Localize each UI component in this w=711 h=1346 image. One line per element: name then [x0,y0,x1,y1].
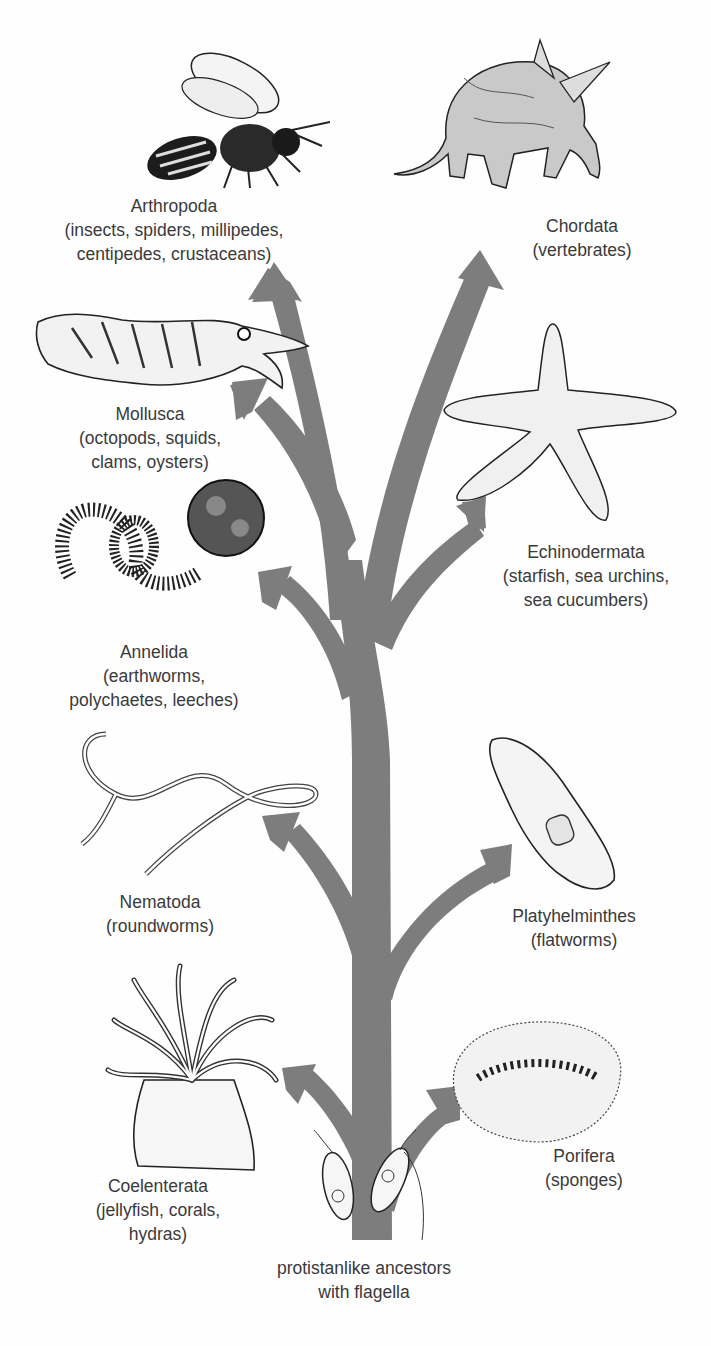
root-label-line2: with flagella [277,1280,451,1304]
label-nematoda: Nematoda (roundworms) [106,890,214,938]
phylum-examples: (roundworms) [106,914,214,938]
phylum-examples: (earthworms, [69,664,238,688]
flagellate-protists-illustration [312,1130,432,1240]
phylum-examples: (sponges) [545,1168,623,1192]
phylum-name: Nematoda [106,890,214,914]
phylogeny-diagram: Arthropoda (insects, spiders, millipedes… [0,0,711,1346]
phylum-examples: clams, oysters) [79,450,221,474]
phylum-name: Porifera [545,1144,623,1168]
sponge-illustration [448,1018,628,1146]
phylum-examples: (insects, spiders, millipedes, [65,218,284,242]
branch-platyhelminthes [372,862,498,1000]
label-platyhelminthes: Platyhelminthes (flatworms) [512,904,636,952]
bee-illustration [140,38,330,190]
label-root-ancestors: protistanlike ancestors with flagella [277,1256,451,1304]
phylum-examples: hydras) [96,1222,220,1246]
phylum-name: Annelida [69,640,238,664]
phylum-examples: sea cucumbers) [503,588,669,612]
phylum-name: Mollusca [79,402,221,426]
aardvark-illustration [384,38,614,196]
flatworm-illustration [482,730,622,896]
phylum-examples: centipedes, crustaceans) [65,242,284,266]
label-echinodermata: Echinodermata (starfish, sea urchins, se… [503,540,669,612]
phylum-examples: (jellyfish, corals, [96,1198,220,1222]
label-chordata: Chordata (vertebrates) [532,214,631,262]
label-mollusca: Mollusca (octopods, squids, clams, oyste… [79,402,221,474]
cuttlefish-illustration [32,308,312,404]
root-label-line1: protistanlike ancestors [277,1256,451,1280]
roundworm-illustration [66,724,326,884]
label-arthropoda: Arthropoda (insects, spiders, millipedes… [65,194,284,266]
phylum-name: Echinodermata [503,540,669,564]
phylum-examples: polychaetes, leeches) [69,688,238,712]
phylum-examples: (starfish, sea urchins, [503,564,669,588]
phylum-examples: (octopods, squids, [79,426,221,450]
phylum-name: Platyhelminthes [512,904,636,928]
phylum-name: Coelenterata [96,1174,220,1198]
phylum-name: Arthropoda [65,194,284,218]
phylum-examples: (flatworms) [512,928,636,952]
phylum-examples: (vertebrates) [532,238,631,262]
label-annelida: Annelida (earthworms, polychaetes, leech… [69,640,238,712]
phylum-name: Chordata [532,214,631,238]
polychaete-illustration [50,476,270,606]
label-coelenterata: Coelenterata (jellyfish, corals, hydras) [96,1174,220,1246]
starfish-illustration [440,320,680,530]
label-porifera: Porifera (sponges) [545,1144,623,1192]
sea-anemone-illustration [104,960,280,1174]
